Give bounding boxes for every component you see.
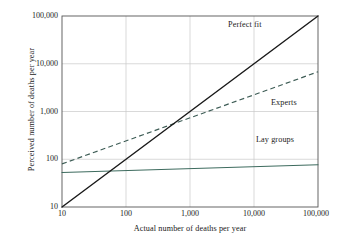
chart-figure: Perceived number of deaths per year Actu… [0,0,347,242]
series-label-perfect-fit: Perfect fit [228,20,262,29]
series-label-lay-groups: Lay groups [256,135,294,144]
plot-area [0,0,347,242]
series-label-experts: Experts [271,98,297,107]
